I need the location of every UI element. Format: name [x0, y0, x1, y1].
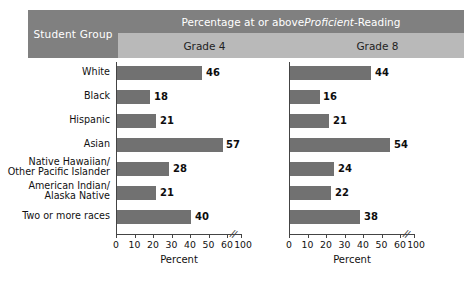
category-label-asian: Asian: [2, 139, 110, 150]
bar-grade4-black: [117, 90, 150, 104]
category-label-nhpi: Native Hawaiian/ Other Pacific Islander: [2, 157, 110, 177]
x-tick-label-grade8-50: 50: [376, 239, 388, 250]
bar-grade8-white: [290, 66, 371, 80]
x-tick-label-grade8-20: 20: [320, 239, 332, 250]
value-grade4-asian: 57: [226, 138, 240, 152]
value-grade8-white: 44: [375, 66, 389, 80]
x-tick-label-grade8-30: 30: [339, 239, 351, 250]
value-grade4-black: 18: [154, 90, 168, 104]
x-tick-grade4-50: [209, 234, 210, 238]
bar-grade4-asian: [117, 138, 223, 152]
x-tick-grade8-40: [363, 234, 364, 238]
value-grade8-black: 16: [323, 90, 337, 104]
category-label-aian: American Indian/ Alaska Native: [2, 181, 110, 201]
header-chart-title: Percentage at or above Proficient-Readin…: [118, 10, 464, 33]
header-title-italic: Proficient: [304, 16, 354, 28]
x-tick-grade8-100: [414, 234, 415, 238]
category-label-black: Black: [2, 91, 110, 102]
bar-grade4-aian: [117, 186, 156, 200]
value-grade4-white: 46: [206, 66, 220, 80]
value-grade8-two-or-more: 38: [364, 210, 378, 224]
value-grade4-aian: 21: [160, 186, 174, 200]
value-grade8-nhpi: 24: [338, 162, 352, 176]
x-tick-grade8-0: [289, 234, 290, 238]
x-tick-grade8-10: [308, 234, 309, 238]
value-grade8-asian: 54: [394, 138, 408, 152]
panel-grade-8: 44 16 21 54 24 22 38 0 10 20 30 40 50 60…: [289, 62, 425, 274]
x-tick-label-grade4-40: 40: [184, 239, 196, 250]
x-tick-grade8-50: [382, 234, 383, 238]
category-label-column: White Black Hispanic Asian Native Hawaii…: [4, 62, 114, 234]
category-label-white: White: [2, 67, 110, 78]
bar-grade8-aian: [290, 186, 331, 200]
header-student-group: Student Group: [28, 10, 118, 58]
x-tick-label-grade4-10: 10: [129, 239, 141, 250]
x-tick-grade8-30: [345, 234, 346, 238]
value-grade8-aian: 22: [335, 186, 349, 200]
header-title-prefix: Percentage at or above: [182, 16, 305, 28]
x-tick-label-grade8-10: 10: [302, 239, 314, 250]
x-tick-label-grade4-20: 20: [147, 239, 159, 250]
x-tick-label-grade8-100: 100: [407, 239, 425, 250]
x-tick-label-grade8-40: 40: [357, 239, 369, 250]
header-grade-8: Grade 8: [291, 33, 464, 58]
value-grade8-hispanic: 21: [333, 114, 347, 128]
x-tick-label-grade4-100: 100: [234, 239, 252, 250]
x-tick-label-grade4-60: 60: [221, 239, 233, 250]
x-tick-grade4-0: [116, 234, 117, 238]
value-grade4-nhpi: 28: [173, 162, 187, 176]
panel-grade-4: 46 18 21 57 28 21 40 0 10 20 30 40 50 60…: [116, 62, 252, 274]
header-title-suffix: -Reading: [354, 16, 400, 28]
bar-grade4-two-or-more: [117, 210, 191, 224]
proficient-reading-bar-chart: Student Group Percentage at or above Pro…: [0, 0, 464, 281]
category-label-two-or-more: Two or more races: [2, 211, 110, 222]
bar-grade8-black: [290, 90, 320, 104]
x-tick-label-grade8-0: 0: [286, 239, 292, 250]
x-tick-label-grade8-60: 60: [394, 239, 406, 250]
category-label-hispanic: Hispanic: [2, 115, 110, 126]
category-label-aian-line2: Alaska Native: [2, 191, 110, 201]
bar-grade8-nhpi: [290, 162, 334, 176]
x-tick-grade4-40: [190, 234, 191, 238]
x-tick-grade4-100: [241, 234, 242, 238]
bar-grade8-asian: [290, 138, 390, 152]
header-grade-4: Grade 4: [118, 33, 291, 58]
bar-grade8-two-or-more: [290, 210, 360, 224]
bar-grade4-white: [117, 66, 202, 80]
x-tick-grade4-30: [172, 234, 173, 238]
x-tick-label-grade4-0: 0: [113, 239, 119, 250]
value-grade4-hispanic: 21: [160, 114, 174, 128]
bar-grade4-nhpi: [117, 162, 169, 176]
x-tick-grade4-20: [153, 234, 154, 238]
bar-grade4-hispanic: [117, 114, 156, 128]
x-axis-title-grade8: Percent: [289, 254, 415, 265]
category-label-nhpi-line2: Other Pacific Islander: [2, 167, 110, 177]
value-grade4-two-or-more: 40: [195, 210, 209, 224]
bar-grade8-hispanic: [290, 114, 329, 128]
x-tick-grade8-20: [326, 234, 327, 238]
x-tick-grade4-10: [135, 234, 136, 238]
x-axis-title-grade4: Percent: [116, 254, 242, 265]
x-tick-label-grade4-30: 30: [166, 239, 178, 250]
x-tick-label-grade4-50: 50: [203, 239, 215, 250]
